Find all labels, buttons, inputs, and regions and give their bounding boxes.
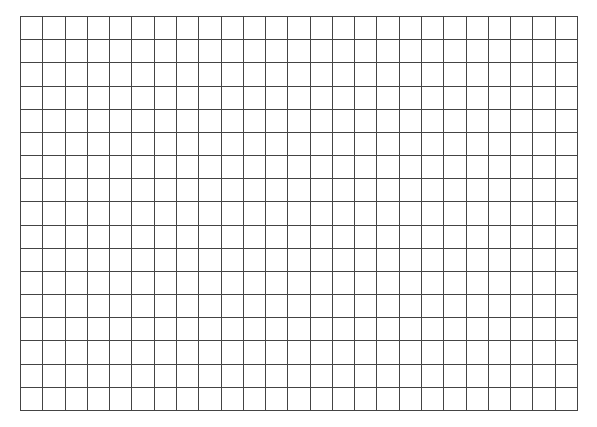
grid-paper	[20, 16, 578, 411]
grid-lines	[20, 16, 578, 411]
